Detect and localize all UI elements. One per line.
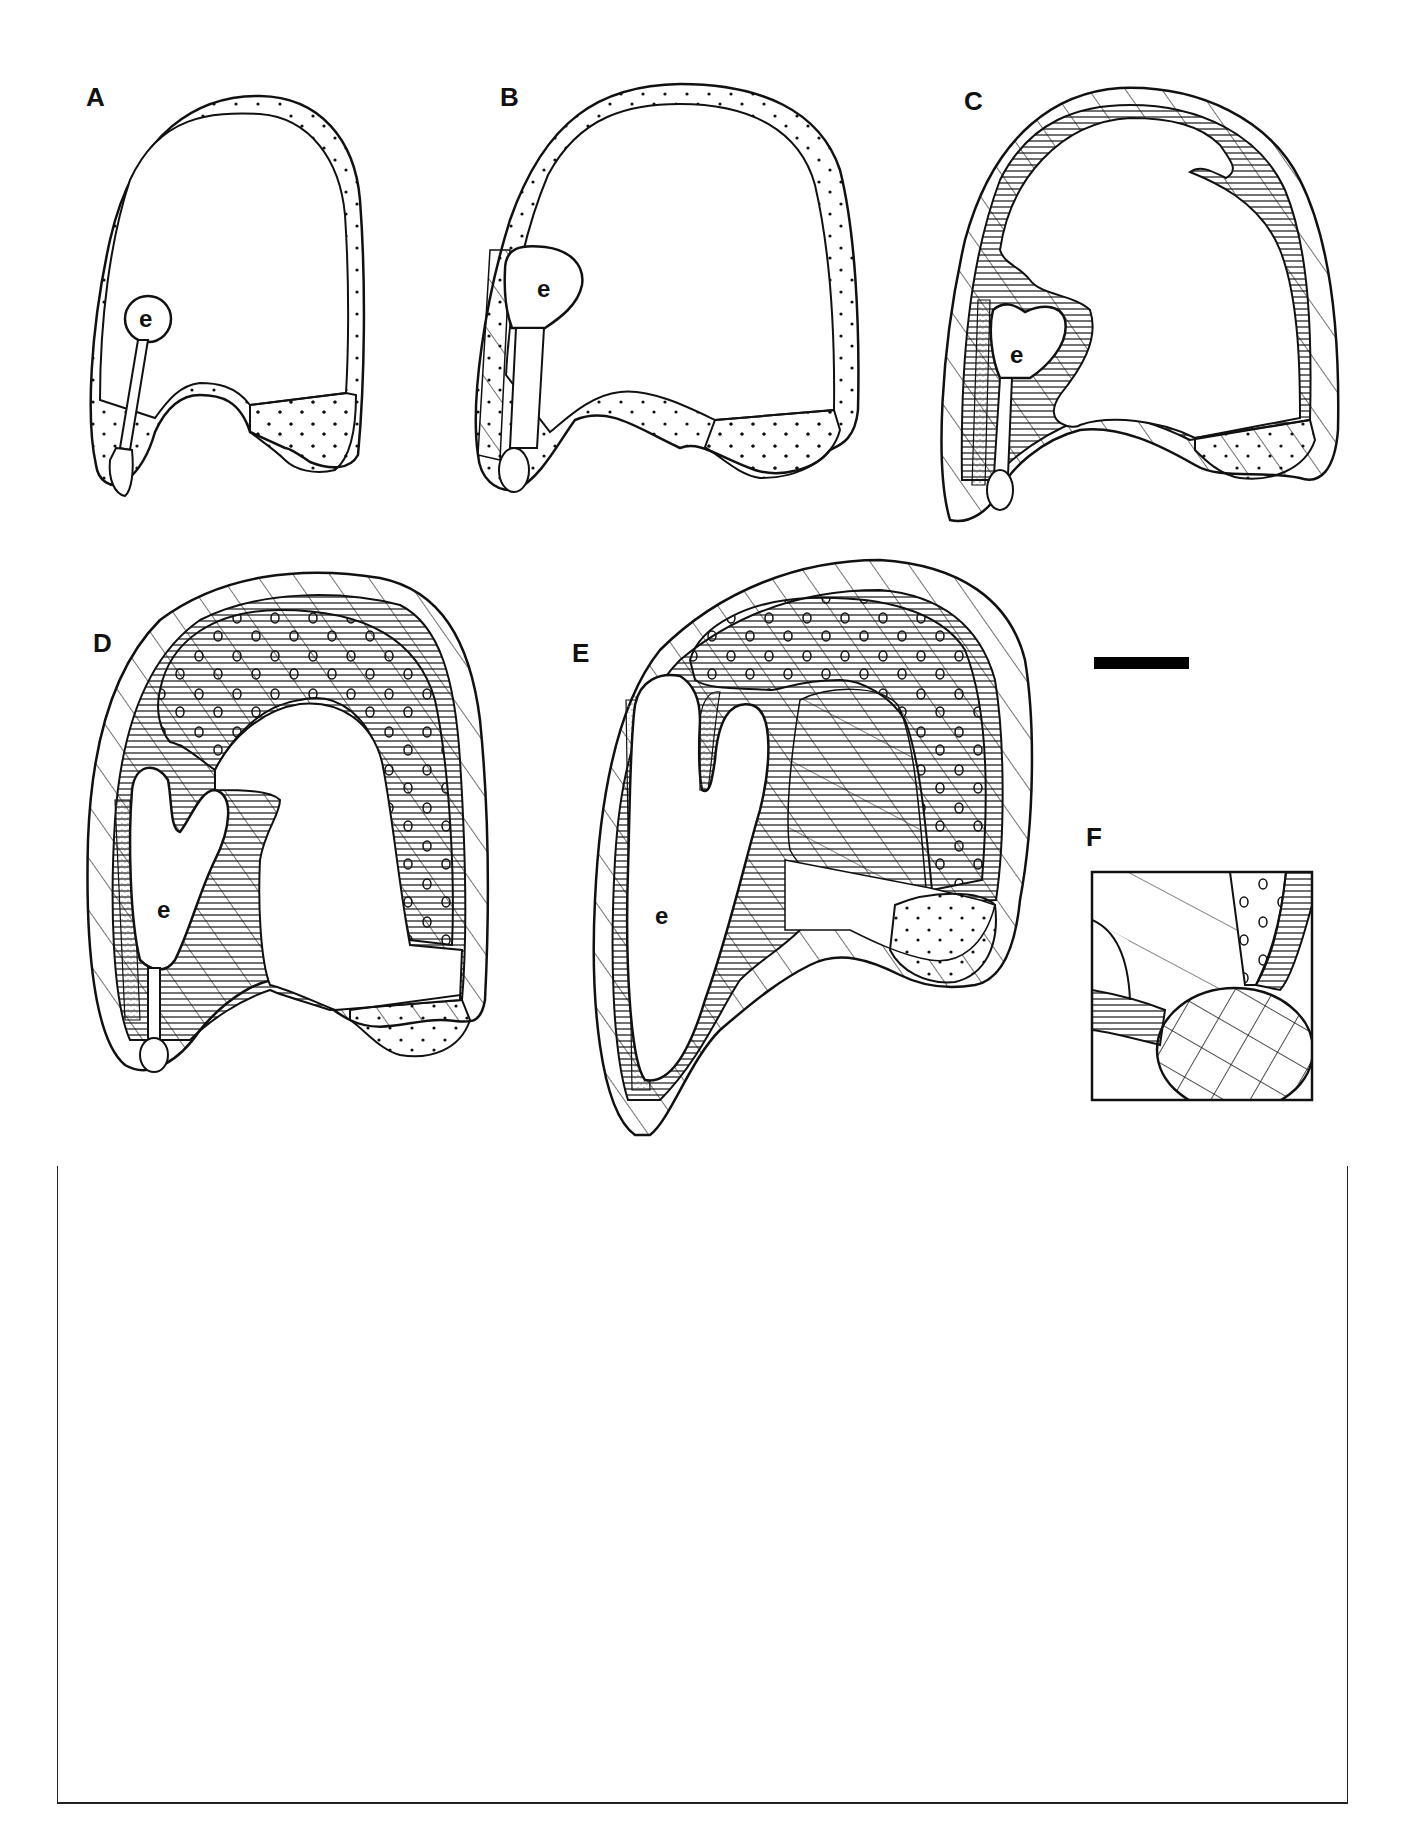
embryo-label: e (537, 275, 550, 302)
panel-c-drawing: e (942, 88, 1339, 521)
panel-label-b: B (500, 82, 519, 113)
panel-label-a: A (86, 82, 105, 113)
panel-d-drawing: e (87, 573, 487, 1072)
panel-b-drawing: e (476, 84, 859, 492)
embryo-label: e (1010, 341, 1023, 368)
panel-label-e: E (572, 638, 589, 669)
scale-bar (1094, 657, 1189, 669)
panel-e-drawing: e (594, 560, 1032, 1135)
embryo-label: e (655, 902, 668, 929)
panel-a-drawing: e (91, 96, 364, 496)
panel-label-d: D (93, 628, 112, 659)
panel-label-f: F (1086, 822, 1102, 853)
panel-f-drawing (1092, 872, 1313, 1112)
panel-label-c: C (964, 86, 983, 117)
empty-caption-frame (57, 1166, 1348, 1804)
embryo-label: e (139, 305, 152, 332)
embryo-label: e (157, 896, 170, 923)
